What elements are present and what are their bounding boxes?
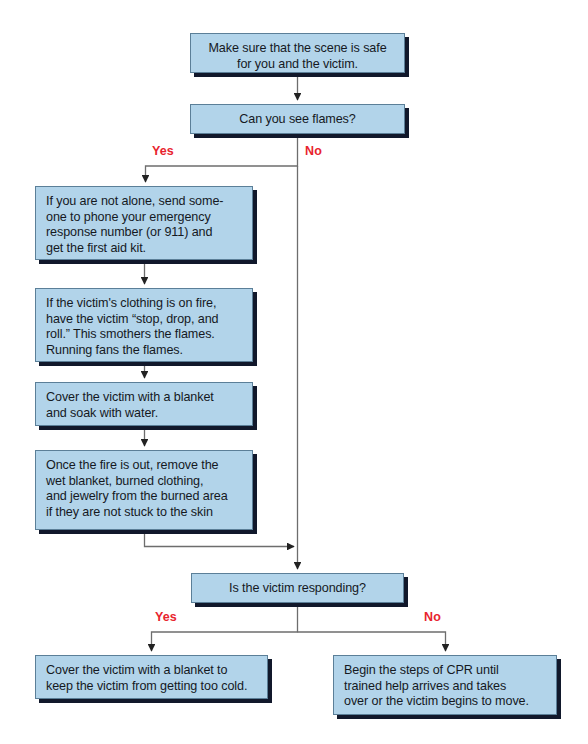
node-scene-safe: Make sure that the scene is safe for you… [190, 33, 405, 73]
node-begin-cpr: Begin the steps of CPR until trained hel… [333, 655, 557, 715]
node-blanket-water-text: Cover the victim with a blanket and soak… [46, 390, 214, 420]
branch-label-flames-no: No [305, 144, 322, 158]
node-stop-drop-roll-text: If the victim's clothing is on fire, hav… [46, 296, 219, 357]
connector-responding-no [298, 632, 446, 651]
branch-label-responding-yes: Yes [155, 610, 177, 624]
node-remove-clothing-text: Once the fire is out, remove the wet bla… [46, 458, 228, 519]
node-remove-clothing: Once the fire is out, remove the wet bla… [35, 450, 253, 530]
connector-left-merge [145, 530, 295, 547]
node-keep-warm: Cover the victim with a blanket to keep … [35, 655, 268, 699]
branch-label-flames-yes: Yes [152, 144, 174, 158]
connector-flames-split [146, 134, 298, 182]
node-begin-cpr-text: Begin the steps of CPR until trained hel… [344, 663, 529, 708]
node-scene-safe-text: Make sure that the scene is safe for you… [201, 41, 394, 72]
node-call-help: If you are not alone, send some- one to … [35, 186, 253, 260]
flowchart-page: Make sure that the scene is safe for you… [0, 0, 588, 744]
node-stop-drop-roll: If the victim's clothing is on fire, hav… [35, 288, 253, 362]
node-flames-question-text: Can you see flames? [201, 112, 394, 128]
node-responding-question-text: Is the victim responding? [202, 581, 393, 597]
node-call-help-text: If you are not alone, send some- one to … [46, 194, 223, 255]
node-blanket-water: Cover the victim with a blanket and soak… [35, 382, 253, 426]
branch-label-responding-no: No [424, 610, 441, 624]
node-flames-question: Can you see flames? [190, 104, 405, 134]
node-responding-question: Is the victim responding? [191, 573, 404, 603]
node-keep-warm-text: Cover the victim with a blanket to keep … [46, 663, 247, 693]
